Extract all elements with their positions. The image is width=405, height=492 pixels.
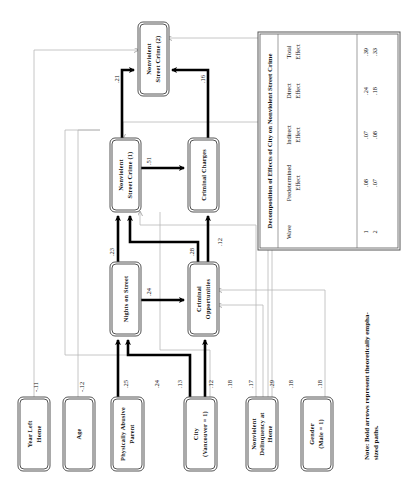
svg-text:Age: Age <box>75 428 82 439</box>
node-year-left-home: Year Left Home <box>18 397 50 471</box>
svg-text:(Male = 1): (Male = 1) <box>317 419 325 449</box>
svg-text:.18: .18 <box>287 380 294 388</box>
svg-text:Effect: Effect <box>294 83 301 99</box>
node-gender: Gender (Male = 1) <box>301 397 333 471</box>
svg-text:Nonviolent: Nonviolent <box>250 418 257 450</box>
svg-text:Nonviolent: Nonviolent <box>117 159 124 191</box>
svg-text:.29: .29 <box>268 380 275 388</box>
svg-text:Home: Home <box>266 426 273 443</box>
table-title: Decomposition of Effects of City on Nonv… <box>266 53 273 228</box>
svg-text:Delinquency at: Delinquency at <box>258 412 265 456</box>
svg-text:.21: .21 <box>113 75 120 83</box>
svg-text:Criminal Charges: Criminal Charges <box>200 149 207 201</box>
svg-text:sized paths.: sized paths. <box>372 425 380 460</box>
svg-text:.33: .33 <box>371 48 378 56</box>
svg-text:-.12: -.12 <box>78 382 85 392</box>
decomposition-table: Decomposition of Effects of City on Nonv… <box>258 32 400 250</box>
svg-text:Note: Bold arrows represent th: Note: Bold arrows represent theoreticall… <box>363 312 371 460</box>
svg-text:Gender: Gender <box>308 423 315 445</box>
svg-text:.07: .07 <box>371 179 378 187</box>
node-age: Age <box>63 397 95 471</box>
svg-text:.51: .51 <box>145 157 152 165</box>
svg-text:.24: .24 <box>153 379 160 388</box>
svg-text:.08: .08 <box>371 131 378 139</box>
svg-text:Total: Total <box>285 45 292 58</box>
svg-text:Street Crime (1): Street Crime (1) <box>126 152 134 199</box>
svg-text:.18: .18 <box>226 380 233 388</box>
svg-text:.07: .07 <box>362 131 369 139</box>
svg-text:.23: .23 <box>108 248 115 256</box>
svg-text:Direct: Direct <box>285 83 292 99</box>
svg-text:.12: .12 <box>207 380 214 388</box>
svg-text:.08: .08 <box>362 179 369 187</box>
svg-text:Effect: Effect <box>294 175 301 191</box>
svg-text:.17: .17 <box>247 379 254 388</box>
svg-text:Home: Home <box>35 426 42 443</box>
svg-text:Opportunities: Opportunities <box>204 278 211 319</box>
svg-text:(Vancouver = 1): (Vancouver = 1) <box>201 411 209 457</box>
svg-text:City: City <box>192 427 199 440</box>
svg-text:Nights on Street: Nights on Street <box>122 275 129 322</box>
svg-text:Indirect: Indirect <box>285 125 292 145</box>
svg-text:Predetermined: Predetermined <box>285 164 292 202</box>
svg-text:.25: .25 <box>122 380 129 388</box>
svg-text:.18: .18 <box>371 87 378 95</box>
node-nights-on-street: Nights on Street <box>110 262 141 336</box>
svg-text:Nonviolent: Nonviolent <box>145 43 152 75</box>
svg-text:Parent: Parent <box>128 424 135 444</box>
svg-text:1: 1 <box>362 230 369 233</box>
node-nonviolent-street-crime-2: Nonviolent Street Crime (2) <box>138 22 169 96</box>
node-criminal-charges: Criminal Charges <box>188 138 219 212</box>
node-abusive-parent: Physically Abusive Parent <box>111 397 144 471</box>
figure-note: Note: Bold arrows represent theoreticall… <box>363 312 380 460</box>
node-city: City (Vancouver = 1) <box>184 397 217 471</box>
svg-text:.12: .12 <box>216 238 223 246</box>
svg-text:.13: .13 <box>176 380 183 388</box>
svg-text:Street Crime (2): Street Crime (2) <box>154 36 162 83</box>
svg-text:Criminal: Criminal <box>195 286 202 312</box>
svg-text:Effect: Effect <box>294 127 301 143</box>
svg-text:.16: .16 <box>199 74 206 83</box>
svg-text:Year Left: Year Left <box>26 420 33 448</box>
svg-text:.24: .24 <box>145 287 152 296</box>
path-diagram: -.11 -.12 .25 .24 .13 .12 .18 .17 .29 .1… <box>0 0 405 492</box>
svg-text:.18: .18 <box>316 380 323 388</box>
svg-text:.39: .39 <box>362 48 369 56</box>
node-criminal-opportunities: Criminal Opportunities <box>188 262 219 336</box>
svg-text:2: 2 <box>371 230 378 233</box>
svg-text:Wave: Wave <box>285 225 292 239</box>
svg-text:-.11: -.11 <box>32 382 39 392</box>
node-nonviolent-delinquency: Nonviolent Delinquency at Home <box>246 397 278 471</box>
svg-text:Effect: Effect <box>294 44 301 60</box>
bold-paths <box>118 70 208 397</box>
svg-text:.24: .24 <box>362 86 369 95</box>
svg-text:.28: .28 <box>188 248 195 256</box>
svg-text:Physically Abusive: Physically Abusive <box>119 407 126 461</box>
node-nonviolent-street-crime-1: Nonviolent Street Crime (1) <box>110 138 141 212</box>
